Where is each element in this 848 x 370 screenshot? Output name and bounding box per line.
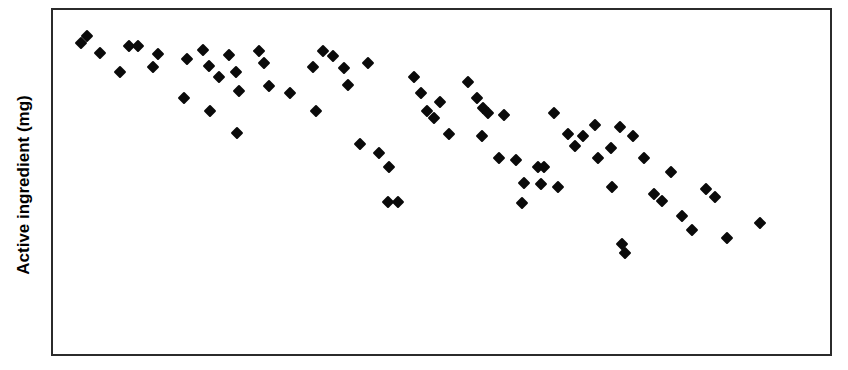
data-point xyxy=(414,86,427,99)
data-point xyxy=(212,71,225,84)
data-point xyxy=(180,52,193,65)
data-point xyxy=(476,129,489,142)
data-point xyxy=(197,43,210,56)
data-point xyxy=(569,140,582,153)
data-point xyxy=(497,109,510,122)
data-point xyxy=(354,138,367,151)
data-point xyxy=(637,152,650,165)
data-point xyxy=(407,71,420,84)
data-point xyxy=(517,176,530,189)
data-point xyxy=(310,105,323,118)
data-point xyxy=(392,196,405,209)
data-point xyxy=(685,224,698,237)
data-point xyxy=(462,76,475,89)
data-point xyxy=(203,59,216,72)
data-point xyxy=(552,181,565,194)
data-point xyxy=(605,141,618,154)
data-point xyxy=(337,62,350,75)
data-point xyxy=(516,196,529,209)
data-point xyxy=(204,105,217,118)
y-axis-label: Active ingredient (mg) xyxy=(15,95,32,274)
data-point xyxy=(562,127,575,140)
data-point xyxy=(592,152,605,165)
scatter-plot-figure: Active ingredient (mg) xyxy=(0,0,848,370)
data-point xyxy=(231,127,244,140)
data-point xyxy=(263,79,276,92)
data-point xyxy=(443,127,456,140)
data-point xyxy=(361,57,374,70)
data-point xyxy=(614,121,627,134)
data-point xyxy=(626,129,639,142)
data-point xyxy=(132,40,145,53)
data-point xyxy=(548,107,561,120)
data-point xyxy=(307,60,320,73)
data-point xyxy=(577,129,590,142)
plot-area xyxy=(53,10,830,354)
data-point xyxy=(665,165,678,178)
data-point xyxy=(342,79,355,92)
data-point xyxy=(754,217,767,230)
data-point xyxy=(177,91,190,104)
data-point xyxy=(510,153,523,166)
data-point xyxy=(147,60,160,73)
data-point xyxy=(383,160,396,173)
data-point xyxy=(233,84,246,97)
data-point xyxy=(222,49,235,62)
data-point xyxy=(152,48,165,61)
data-point xyxy=(709,191,722,204)
data-point xyxy=(721,231,734,244)
data-point xyxy=(676,210,689,223)
data-point xyxy=(284,86,297,99)
data-point xyxy=(229,66,242,79)
x-axis-label-container xyxy=(51,356,832,370)
data-point xyxy=(699,183,712,196)
data-point xyxy=(493,152,506,165)
data-point xyxy=(535,177,548,190)
data-point xyxy=(113,66,126,79)
y-axis-label-container: Active ingredient (mg) xyxy=(0,0,46,370)
data-point xyxy=(373,146,386,159)
data-point xyxy=(94,47,107,60)
data-point xyxy=(434,95,447,108)
data-point xyxy=(258,57,271,70)
data-point xyxy=(589,119,602,132)
plot-frame xyxy=(51,8,832,356)
data-point xyxy=(606,181,619,194)
